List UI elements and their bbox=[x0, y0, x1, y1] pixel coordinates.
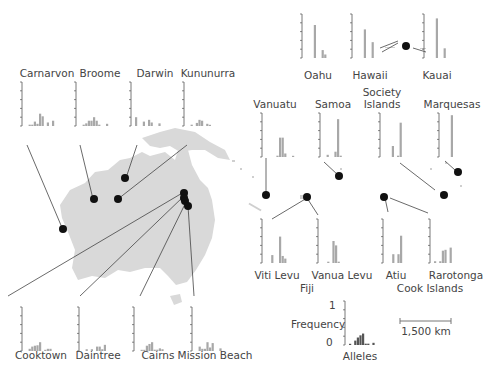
label-daintree: Daintree bbox=[75, 349, 120, 361]
legend-y-max: 1 bbox=[329, 299, 336, 311]
label-kununurra: Kununurra bbox=[181, 67, 236, 79]
label-society-islands: Society Islands bbox=[357, 86, 407, 110]
legend-y-label: Frequency bbox=[291, 318, 345, 330]
legend-y-min: 0 bbox=[326, 336, 333, 348]
label-viti-levu: Viti Levu bbox=[254, 269, 299, 281]
scale-bar bbox=[400, 318, 451, 324]
histogram-vanua-levu bbox=[316, 219, 340, 263]
label-cairns: Cairns bbox=[142, 349, 175, 361]
histogram-samoa bbox=[318, 113, 342, 157]
label-samoa: Samoa bbox=[315, 98, 351, 110]
label-darwin: Darwin bbox=[137, 67, 174, 79]
label-hawaii: Hawaii bbox=[352, 69, 387, 81]
histogram-hawaii bbox=[350, 14, 374, 58]
histogram-broome bbox=[74, 82, 108, 126]
marker-society-islands bbox=[440, 191, 448, 199]
histogram-mission-beach bbox=[190, 307, 222, 351]
histogram-darwin bbox=[129, 82, 161, 126]
marker-hawaii-islands bbox=[402, 42, 410, 50]
label-marquesas: Marquesas bbox=[424, 98, 481, 110]
marker-mission-beach bbox=[184, 202, 192, 210]
label-kauai: Kauai bbox=[422, 69, 451, 81]
histogram-cooktown bbox=[20, 307, 52, 351]
scale-bar-label: 1,500 km bbox=[401, 325, 451, 337]
marker-marquesas bbox=[454, 168, 462, 176]
histogram-oahu bbox=[300, 14, 326, 58]
label-mission-beach: Mission Beach bbox=[178, 349, 253, 361]
tasmania bbox=[170, 294, 182, 305]
label-atiu: Atiu bbox=[386, 269, 407, 281]
legend-x-label: Alleles bbox=[343, 350, 377, 362]
histogram-marquesas bbox=[437, 113, 453, 157]
histogram-kununurra bbox=[182, 82, 211, 126]
marker-cook-islands bbox=[380, 193, 388, 201]
marker-samoa bbox=[335, 172, 343, 180]
marker-broome bbox=[90, 195, 98, 203]
histogram-cairns bbox=[132, 307, 164, 351]
histogram-carnarvon bbox=[20, 82, 54, 126]
label-vanuatu: Vanuatu bbox=[253, 98, 296, 110]
marker-fiji bbox=[303, 193, 311, 201]
marker-kununurra bbox=[114, 195, 122, 203]
label-fiji: Fiji bbox=[300, 282, 314, 294]
allele-frequency-map: Carnarvon Broome Darwin Kununurra Oahu H… bbox=[0, 0, 499, 376]
histogram-atiu bbox=[381, 219, 402, 263]
marker-vanuatu bbox=[262, 191, 270, 199]
histogram-society-islands bbox=[378, 113, 402, 157]
histogram-daintree bbox=[77, 307, 106, 351]
label-vanua-levu: Vanua Levu bbox=[312, 269, 373, 281]
histograms bbox=[20, 14, 453, 351]
histogram-viti-levu bbox=[260, 219, 286, 263]
label-broome: Broome bbox=[80, 67, 121, 79]
histogram-rarotonga bbox=[428, 219, 452, 263]
label-carnarvon: Carnarvon bbox=[20, 67, 75, 79]
marker-carnarvon bbox=[59, 225, 67, 233]
label-cooktown: Cooktown bbox=[15, 349, 67, 361]
histogram-kauai bbox=[422, 14, 446, 58]
marker-darwin bbox=[121, 174, 129, 182]
label-cook-islands: Cook Islands bbox=[397, 282, 463, 294]
map-canvas bbox=[0, 0, 499, 376]
histogram-legend bbox=[343, 301, 375, 345]
histogram-vanuatu bbox=[260, 113, 294, 157]
label-rarotonga: Rarotonga bbox=[429, 269, 483, 281]
label-oahu: Oahu bbox=[304, 69, 332, 81]
